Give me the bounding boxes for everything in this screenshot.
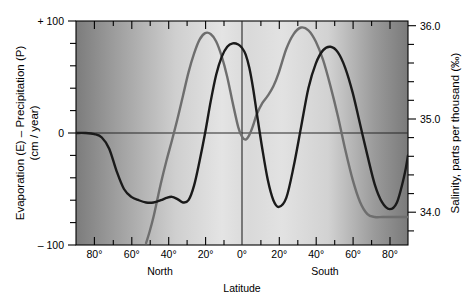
x-tick-label: 0°: [237, 248, 247, 260]
hemisphere-label-north: North: [147, 265, 173, 277]
x-tick-label: 80°: [86, 248, 102, 260]
y-right-tick-label-top: 36.0: [420, 20, 441, 32]
left-axis-tick-marks: [68, 21, 76, 245]
x-tick-label: 40°: [308, 248, 324, 260]
x-tick-label: 60°: [124, 248, 140, 260]
x-axis-tick-labels: 80° 60° 40° 20° 0° 20° 40° 60° 80°: [86, 248, 397, 260]
x-tick-label: 60°: [345, 248, 361, 260]
y-right-tick-label-bottom: 34.0: [420, 206, 441, 218]
y-left-tick-label-top: + 100: [37, 15, 64, 27]
figure-container: 80° 60° 40° 20° 0° 20° 40° 60° 80° + 100…: [0, 0, 467, 306]
hemisphere-label-south: South: [311, 265, 339, 277]
left-axis-tick-labels: + 100 0 – 100: [37, 15, 64, 251]
x-tick-label: 40°: [161, 248, 177, 260]
y-axis-left-units: (cm / year): [28, 105, 40, 160]
x-axis-title: Latitude: [223, 282, 261, 294]
right-axis-tick-labels: 36.0 35.0 34.0: [420, 20, 441, 219]
y-left-tick-label-bottom: – 100: [38, 239, 64, 251]
right-axis-tick-marks: [408, 26, 416, 231]
x-tick-label: 20°: [198, 248, 214, 260]
y-left-tick-label-zero: 0: [58, 127, 64, 139]
x-tick-label: 80°: [382, 248, 398, 260]
y-axis-left-title: Evaporation (E) – Precipitation (P): [14, 46, 26, 221]
y-axis-right-title: Salinity, parts per thousand (‰): [449, 52, 461, 213]
latitude-salinity-evaporation-chart: 80° 60° 40° 20° 0° 20° 40° 60° 80° + 100…: [0, 0, 467, 306]
x-tick-label: 20°: [271, 248, 287, 260]
y-right-tick-label-mid: 35.0: [420, 113, 441, 125]
